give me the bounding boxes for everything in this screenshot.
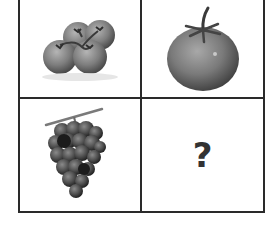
cell-top-right xyxy=(142,0,263,97)
grid-right-border xyxy=(263,0,265,212)
cell-bottom-right: ? xyxy=(142,99,263,211)
question-mark: ? xyxy=(193,138,213,172)
puzzle-grid: ? xyxy=(18,0,264,212)
grapes-icon xyxy=(40,105,120,205)
grid-bottom-border xyxy=(18,211,265,213)
tomato-icon xyxy=(158,4,248,94)
cell-bottom-left xyxy=(20,99,140,211)
cherry-tomatoes-icon xyxy=(30,9,130,89)
cell-top-left xyxy=(20,0,140,97)
